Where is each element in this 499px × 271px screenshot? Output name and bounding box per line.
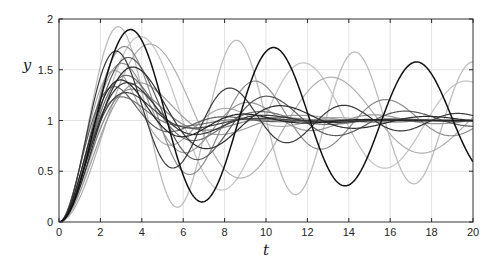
x-axis-label: t bbox=[263, 241, 270, 259]
y-tick-label: 1.5 bbox=[38, 64, 53, 76]
x-tick-label: 10 bbox=[260, 226, 272, 238]
x-tick-label: 12 bbox=[301, 226, 313, 238]
x-tick-label: 14 bbox=[343, 226, 355, 238]
x-tick-label: 2 bbox=[97, 226, 103, 238]
x-tick-label: 8 bbox=[222, 226, 228, 238]
x-tick-label: 6 bbox=[180, 226, 186, 238]
x-tick-label: 20 bbox=[467, 226, 479, 238]
x-tick-label: 18 bbox=[425, 226, 437, 238]
y-tick-label: 0 bbox=[47, 216, 53, 228]
y-axis-label: y bbox=[22, 56, 32, 74]
y-tick-label: 0.5 bbox=[38, 165, 53, 177]
step-response-figure: 0246810121416182000.511.52yt bbox=[0, 0, 499, 271]
y-tick-label: 2 bbox=[47, 13, 53, 25]
x-tick-label: 0 bbox=[56, 226, 62, 238]
x-tick-label: 16 bbox=[384, 226, 396, 238]
chart-canvas: 0246810121416182000.511.52yt bbox=[0, 0, 499, 271]
x-tick-label: 4 bbox=[139, 226, 145, 238]
y-tick-label: 1 bbox=[47, 115, 53, 127]
